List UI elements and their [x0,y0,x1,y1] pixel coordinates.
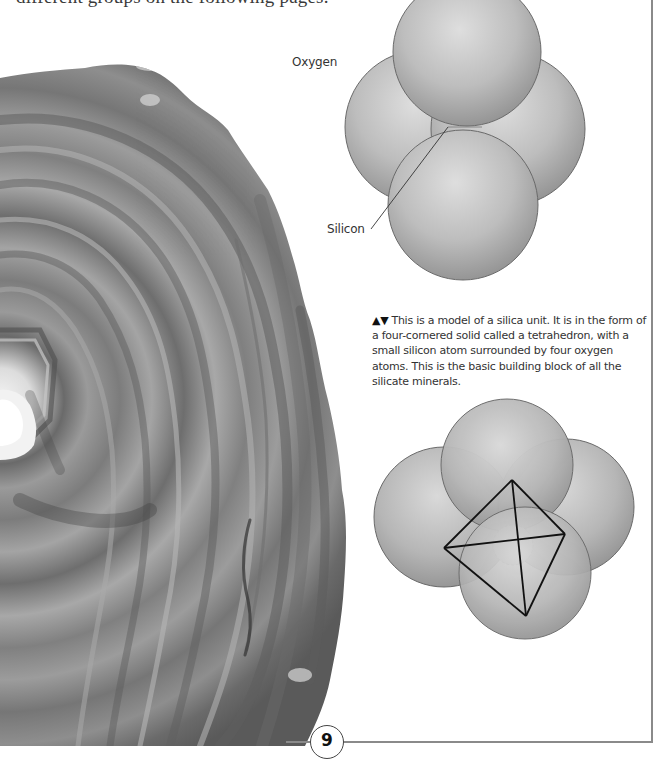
caption-text: This is a model of a silica unit. It is … [372,314,646,388]
silicon-label: Silicon [327,222,365,236]
oxygen-sphere-bottom [388,130,538,280]
oxygen-sphere-bottom [459,507,591,639]
page-frame-right-rule [651,0,653,742]
bottom-tetrahedron-model [374,399,634,639]
oxygen-label: Oxygen [292,55,337,69]
up-down-arrows-icon: ▲▼ [372,314,388,327]
figure-caption: ▲▼This is a model of a silica unit. It i… [372,313,652,389]
page-number: 9 [310,725,344,759]
top-silica-model [345,0,585,280]
